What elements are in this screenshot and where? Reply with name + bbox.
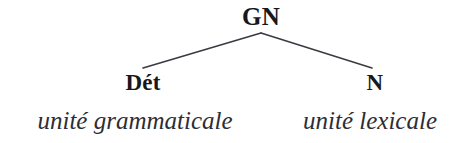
node-child-n: N (367, 71, 384, 94)
node-root-gn: GN (242, 4, 280, 29)
edge-root-to-n (261, 33, 372, 68)
gloss-n: unité lexicale (303, 108, 437, 133)
syntax-tree-diagram: GN Dét N unité grammaticale unité lexica… (0, 0, 469, 143)
node-child-det: Dét (125, 71, 160, 94)
edge-root-to-det (143, 33, 261, 68)
gloss-det: unité grammaticale (37, 108, 232, 133)
